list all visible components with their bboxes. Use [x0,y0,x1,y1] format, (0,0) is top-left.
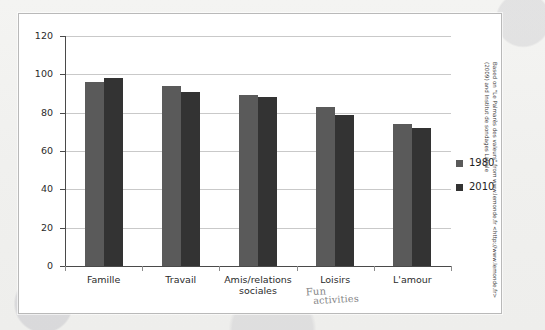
y-axis-tick-label: 120 [19,31,53,41]
x-axis-tick [219,266,220,271]
source-credit-line-1: Based on "Le Palmarès des valeurs" from … [491,62,499,312]
y-axis-tick-label: 100 [19,69,53,79]
bar [393,124,412,266]
bar [335,115,354,266]
x-axis-category-label-line: Loisirs [297,274,374,285]
x-axis-line [65,266,452,267]
x-axis-category-label: Famille [65,274,142,285]
x-axis-category-label: Travail [142,274,219,285]
bar [162,86,181,266]
x-axis-category-label-line: L'amour [374,274,451,285]
x-axis-tick [297,266,298,271]
y-axis-tick-label: 0 [19,261,53,271]
x-axis-tick [374,266,375,271]
bar [412,128,431,266]
source-credit-line-2: (2009) and Institut de sondages Labale [483,62,491,312]
legend-swatch [456,160,463,167]
legend-swatch [456,184,463,191]
x-axis-category-label-line: Travail [142,274,219,285]
y-axis-tick-label: 80 [19,108,53,118]
chart-figure-frame: 020406080100120 FamilleTravailAmis/relat… [18,13,502,314]
source-credit: Based on "Le Palmarès des valeurs" from … [483,62,498,312]
x-axis-category-label: Amis/relationssociales [219,274,296,296]
bar [85,82,104,266]
bar [239,95,258,266]
x-axis-category-label: Loisirs [297,274,374,285]
x-axis-category-label: L'amour [374,274,451,285]
x-axis-category-label-line: Famille [65,274,142,285]
x-axis-tick [142,266,143,271]
handwritten-line-2: activities [313,294,359,305]
bars-container [65,36,451,266]
x-axis-tick [65,266,66,271]
x-axis-category-label-line: sociales [219,285,296,296]
y-axis-tick-label: 60 [19,146,53,156]
bar [104,78,123,266]
bar [181,92,200,266]
bar [258,97,277,266]
bar [316,107,335,266]
y-axis-tick-label: 40 [19,184,53,194]
y-axis-tick-label: 20 [19,223,53,233]
x-axis-category-label-line: Amis/relations [219,274,296,285]
x-axis-tick [451,266,452,271]
plot-area: 020406080100120 FamilleTravailAmis/relat… [19,14,501,313]
handwritten-annotation: Fun activities [306,285,359,306]
